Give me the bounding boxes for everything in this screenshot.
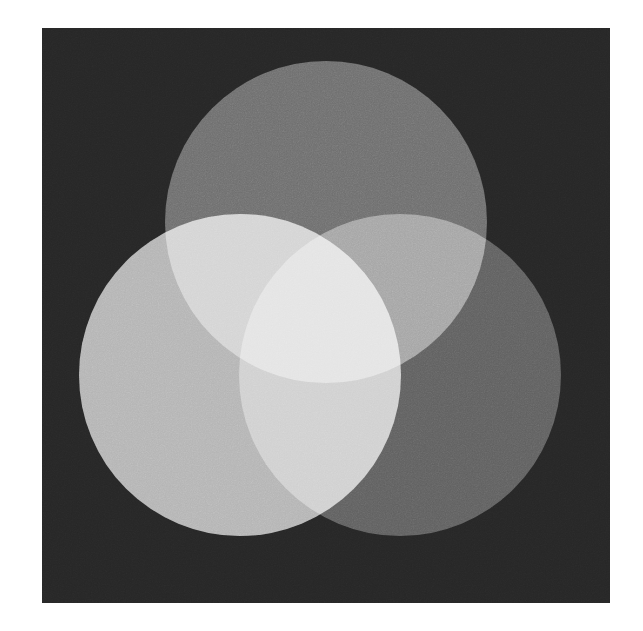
plot-panel bbox=[42, 28, 610, 603]
disc-group bbox=[42, 28, 610, 603]
figure-canvas bbox=[0, 0, 643, 631]
disc-right bbox=[239, 214, 561, 536]
